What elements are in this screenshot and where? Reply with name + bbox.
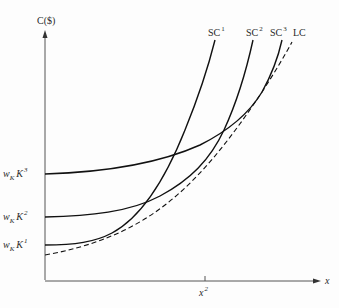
x2-tick-label: x2: [198, 285, 208, 298]
cost-curves-diagram: C($) x x2 wKK1 wKK2 wKK3 SC1 SC2 SC3 LC: [0, 0, 339, 308]
y-axis-label: C($): [37, 15, 55, 27]
y-axis-arrow-icon: [43, 30, 48, 38]
x-axis-label: x: [324, 275, 330, 286]
y-tick-label-wkk3: wKK3: [3, 166, 28, 182]
sc3-label: SC3: [270, 25, 287, 38]
y-tick-label-wkk1: wKK1: [3, 237, 28, 253]
lc-curve: [45, 42, 292, 255]
sc2-curve: [45, 40, 253, 217]
x-axis-arrow-icon: [313, 279, 321, 284]
sc1-label: SC1: [208, 25, 225, 38]
sc1-curve: [45, 40, 215, 245]
sc2-label: SC2: [246, 25, 263, 38]
lc-label: LC: [293, 27, 306, 38]
y-tick-label-wkk2: wKK2: [3, 209, 28, 225]
sc3-curve: [45, 40, 282, 174]
